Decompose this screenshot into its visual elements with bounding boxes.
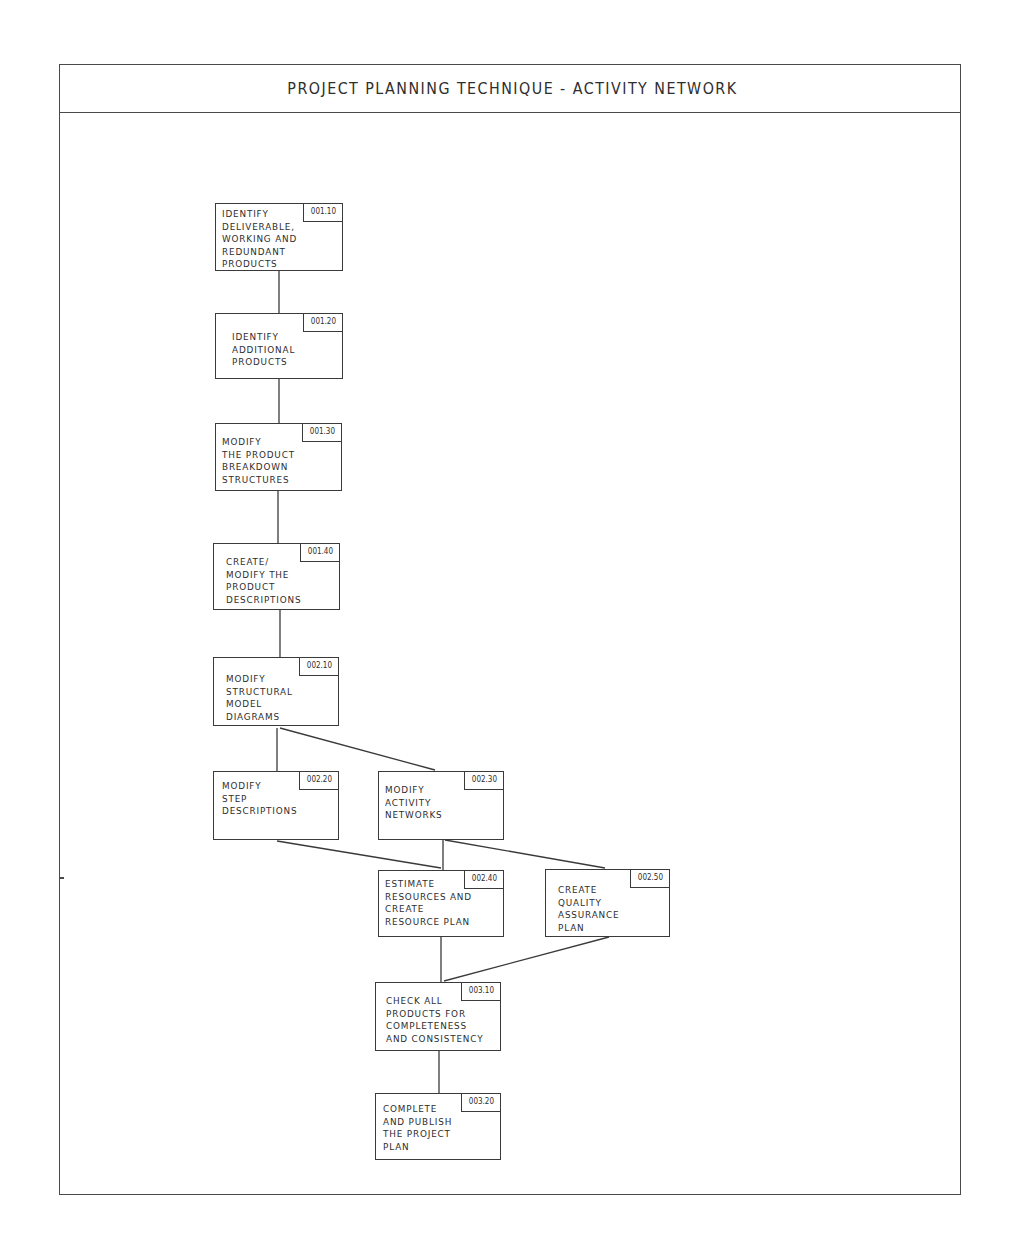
activity-label: IDENTIFY ADDITIONAL PRODUCTS	[232, 331, 295, 369]
activity-label: ESTIMATE RESOURCES AND CREATE RESOURCE P…	[385, 878, 472, 928]
activity-label: IDENTIFY DELIVERABLE, WORKING AND REDUND…	[222, 208, 297, 271]
activity-node: MODIFY STRUCTURAL MODEL DIAGRAMS002.10	[213, 657, 339, 726]
activity-node: ESTIMATE RESOURCES AND CREATE RESOURCE P…	[378, 870, 504, 937]
frame-tick-mark	[59, 877, 64, 879]
activity-code: 003.10	[461, 982, 501, 1001]
activity-node: MODIFY ACTIVITY NETWORKS002.30	[378, 771, 504, 840]
activity-node: IDENTIFY DELIVERABLE, WORKING AND REDUND…	[215, 203, 343, 271]
activity-label: MODIFY ACTIVITY NETWORKS	[385, 784, 443, 822]
activity-code: 003.20	[461, 1093, 501, 1112]
activity-label: MODIFY THE PRODUCT BREAKDOWN STRUCTURES	[222, 436, 295, 486]
activity-label: MODIFY STRUCTURAL MODEL DIAGRAMS	[226, 673, 293, 723]
activity-label: CREATE/ MODIFY THE PRODUCT DESCRIPTIONS	[226, 556, 301, 606]
diagram-frame: PROJECT PLANNING TECHNIQUE - ACTIVITY NE…	[59, 64, 961, 1195]
activity-label: CREATE QUALITY ASSURANCE PLAN	[558, 884, 619, 934]
activity-code: 002.40	[464, 870, 504, 889]
activity-node: MODIFY STEP DESCRIPTIONS002.20	[213, 771, 339, 840]
diagram-title: PROJECT PLANNING TECHNIQUE - ACTIVITY NE…	[282, 80, 738, 98]
activity-code: 001.40	[300, 543, 340, 562]
title-bar: PROJECT PLANNING TECHNIQUE - ACTIVITY NE…	[60, 65, 960, 113]
activity-node: IDENTIFY ADDITIONAL PRODUCTS001.20	[215, 313, 343, 379]
activity-code: 002.20	[299, 771, 339, 790]
activity-node: COMPLETE AND PUBLISH THE PROJECT PLAN003…	[375, 1093, 501, 1160]
activity-label: MODIFY STEP DESCRIPTIONS	[222, 780, 297, 818]
activity-code: 002.30	[464, 771, 504, 790]
activity-code: 001.30	[302, 423, 342, 442]
activity-node: CREATE QUALITY ASSURANCE PLAN002.50	[545, 869, 670, 937]
activity-node: MODIFY THE PRODUCT BREAKDOWN STRUCTURES0…	[215, 423, 342, 491]
activity-label: CHECK ALL PRODUCTS FOR COMPLETENESS AND …	[386, 995, 483, 1045]
activity-code: 001.10	[303, 203, 343, 222]
activity-node: CHECK ALL PRODUCTS FOR COMPLETENESS AND …	[375, 982, 501, 1051]
activity-code: 002.10	[299, 657, 339, 676]
activity-node: CREATE/ MODIFY THE PRODUCT DESCRIPTIONS0…	[213, 543, 340, 610]
activity-code: 001.20	[303, 313, 343, 332]
activity-label: COMPLETE AND PUBLISH THE PROJECT PLAN	[383, 1103, 452, 1153]
activity-code: 002.50	[630, 869, 670, 888]
